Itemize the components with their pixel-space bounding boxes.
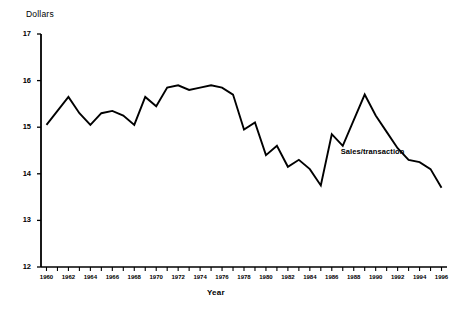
y-tick-label: 16 bbox=[7, 76, 31, 85]
data-series-group bbox=[46, 85, 441, 188]
y-tick-label: 13 bbox=[7, 215, 31, 224]
x-tick-label: 1996 bbox=[428, 274, 456, 280]
x-axis bbox=[41, 267, 447, 271]
series-line-sales-transaction bbox=[46, 85, 441, 188]
y-tick-label: 15 bbox=[7, 122, 31, 131]
y-tick-label: 17 bbox=[7, 29, 31, 38]
y-tick-label: 12 bbox=[7, 262, 31, 271]
y-axis bbox=[37, 34, 41, 267]
chart-figure: Dollars Year Sales/transaction 121314151… bbox=[0, 0, 460, 311]
plot-area bbox=[0, 0, 460, 311]
y-tick-label: 14 bbox=[7, 169, 31, 178]
